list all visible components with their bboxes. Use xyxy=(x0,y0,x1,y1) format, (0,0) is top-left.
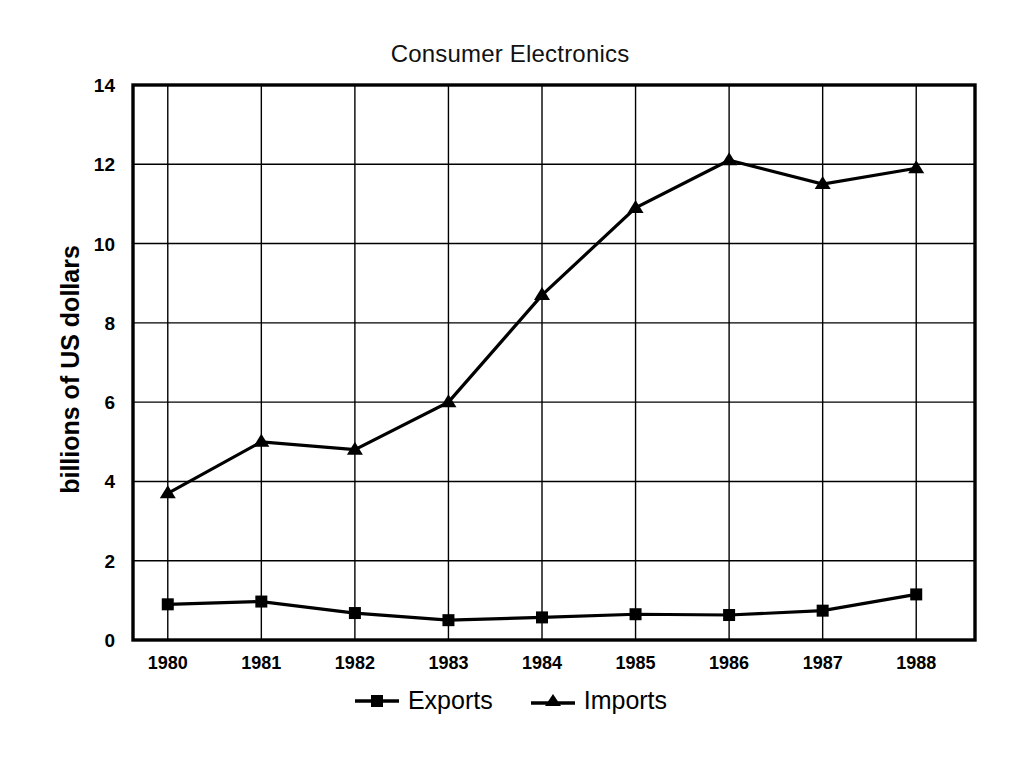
plot-area: 02468101214 1980198119821983198419851986… xyxy=(0,0,1020,767)
svg-text:1985: 1985 xyxy=(616,653,656,673)
svg-text:8: 8 xyxy=(104,313,115,334)
grid-lines xyxy=(133,85,975,640)
svg-text:1987: 1987 xyxy=(803,653,843,673)
legend-item-imports[interactable]: Imports xyxy=(529,688,667,713)
svg-text:14: 14 xyxy=(94,75,116,96)
svg-text:1982: 1982 xyxy=(335,653,375,673)
legend-label-exports: Exports xyxy=(408,688,493,713)
data-point-imports-1988[interactable] xyxy=(908,160,924,173)
svg-text:0: 0 xyxy=(104,630,115,651)
svg-text:1988: 1988 xyxy=(896,653,936,673)
svg-text:1981: 1981 xyxy=(241,653,281,673)
axis-frame xyxy=(133,85,975,640)
data-point-exports-1988[interactable] xyxy=(910,588,922,600)
data-point-exports-1981[interactable] xyxy=(255,596,267,608)
data-point-exports-1982[interactable] xyxy=(349,607,361,619)
svg-text:1984: 1984 xyxy=(522,653,562,673)
svg-text:10: 10 xyxy=(94,234,115,255)
x-axis-ticks: 198019811982198319841985198619871988 xyxy=(148,653,936,673)
chart-legend: Exports Imports xyxy=(0,688,1020,713)
legend-item-exports[interactable]: Exports xyxy=(353,688,493,713)
svg-text:1983: 1983 xyxy=(428,653,468,673)
svg-text:6: 6 xyxy=(104,392,115,413)
svg-text:2: 2 xyxy=(104,551,115,572)
svg-text:12: 12 xyxy=(94,154,115,175)
svg-text:1980: 1980 xyxy=(148,653,188,673)
data-point-exports-1987[interactable] xyxy=(817,605,829,617)
y-axis-ticks: 02468101214 xyxy=(94,75,116,651)
data-point-imports-1986[interactable] xyxy=(721,152,737,165)
square-marker-icon xyxy=(353,691,401,711)
legend-label-imports: Imports xyxy=(584,688,667,713)
data-point-exports-1986[interactable] xyxy=(723,609,735,621)
data-point-exports-1980[interactable] xyxy=(162,598,174,610)
triangle-marker-icon xyxy=(529,691,577,711)
data-point-exports-1985[interactable] xyxy=(630,608,642,620)
data-point-exports-1984[interactable] xyxy=(536,611,548,623)
chart-container: Consumer Electronics billions of US doll… xyxy=(0,0,1020,767)
data-point-exports-1983[interactable] xyxy=(442,614,454,626)
data-point-imports-1981[interactable] xyxy=(253,434,269,447)
svg-text:1986: 1986 xyxy=(709,653,749,673)
svg-text:4: 4 xyxy=(104,471,115,492)
